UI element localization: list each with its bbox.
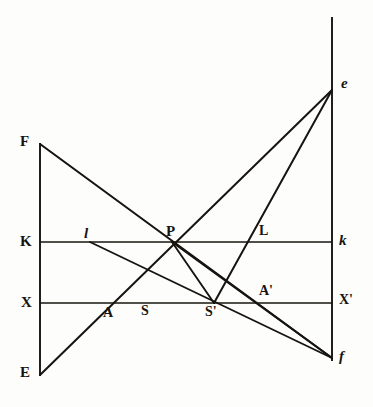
point-label-k: k — [339, 233, 347, 248]
point-label-K: K — [20, 234, 32, 249]
point-label-F: F — [20, 134, 29, 149]
point-label-L: L — [259, 224, 268, 238]
diagram-canvas — [0, 0, 373, 407]
point-label-l: l — [84, 226, 88, 241]
point-label-A: A — [103, 306, 113, 320]
point-label-e: e — [341, 76, 348, 91]
ray-P-to-f — [172, 242, 332, 358]
ray-Sprime-to-e — [214, 90, 332, 303]
point-label-S-prime: S' — [205, 305, 217, 319]
point-label-S: S — [141, 304, 149, 318]
point-label-X: X — [21, 295, 32, 310]
geometry-figure: F E K X l P L k A S S' A' X' e f — [0, 0, 373, 407]
point-label-f: f — [339, 349, 344, 364]
point-label-E: E — [20, 365, 30, 380]
point-label-X-prime: X' — [339, 293, 353, 307]
point-label-P: P — [166, 224, 175, 239]
point-label-A-prime: A' — [259, 284, 273, 298]
ray-P-to-Sprime — [172, 242, 214, 303]
